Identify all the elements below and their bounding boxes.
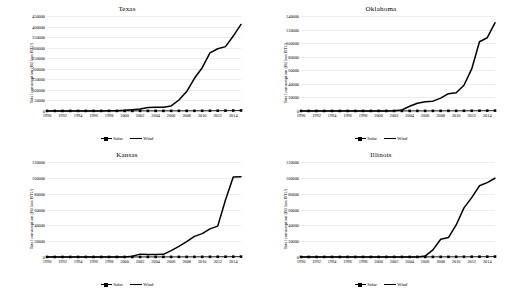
data-point-marker (447, 256, 450, 259)
y-axis-tick: 20000 (288, 239, 299, 244)
x-axis-tick: 2010 (452, 259, 461, 264)
x-axis-tick: 2006 (421, 113, 430, 118)
chart-panel-illinois: Illinois Total consumption (Billion BTU)… (254, 146, 508, 291)
x-axis-tick: 2006 (167, 259, 176, 264)
legend-item-solar: Solar (101, 282, 123, 287)
data-point-marker (470, 255, 473, 258)
data-point-marker (224, 109, 227, 112)
y-axis-tick: 200000 (32, 66, 45, 71)
x-axis-tick: 1992 (312, 113, 321, 118)
series-line-wind (47, 177, 241, 257)
y-axis-label: Total consumption (Billion BTU) (283, 42, 288, 103)
x-axis-tick: 1996 (89, 259, 98, 264)
x-axis-tick: 2012 (213, 259, 222, 264)
data-point-marker (240, 109, 243, 112)
data-point-marker (240, 255, 243, 258)
y-axis-label: Total consumption (Billion BTU) (283, 188, 288, 249)
x-axis-tick: 2012 (213, 113, 222, 118)
x-axis-tick: 2002 (136, 113, 145, 118)
y-axis-tick: 350000 (32, 35, 45, 40)
y-axis-tick: 120000 (286, 27, 299, 32)
x-axis-tick: 2004 (151, 113, 160, 118)
y-axis-tick: 60000 (288, 68, 299, 73)
x-axis-tick: 2000 (120, 259, 129, 264)
x-axis-tick: 2006 (421, 259, 430, 264)
x-axis-tick: 1994 (328, 259, 337, 264)
data-point-marker (416, 110, 419, 113)
series-lines (301, 162, 495, 257)
chart-panel-texas: Texas Total consumption (Billion BTU) 05… (0, 0, 254, 145)
x-axis-tick: 2010 (452, 113, 461, 118)
legend-item-wind: Wind (384, 136, 408, 141)
x-axis-tick: 2008 (182, 259, 191, 264)
x-axis-tick: 1998 (105, 113, 114, 118)
plot-area: 0500001000001500002000002500003000003500… (47, 16, 241, 111)
wind-series-icon (130, 283, 142, 287)
chart-panel-oklahoma: Oklahoma Total consumption (Billion BTU)… (254, 0, 508, 145)
legend-label-solar: Solar (113, 282, 123, 287)
data-point-marker (154, 256, 157, 259)
legend-label-wind: Wind (143, 136, 153, 141)
x-axis-tick: 2008 (182, 113, 191, 118)
x-axis-tick: 2010 (198, 113, 207, 118)
x-axis-tick: 2002 (136, 259, 145, 264)
y-axis-tick: 20000 (288, 95, 299, 100)
legend: Solar Wind (254, 282, 508, 287)
data-point-marker (170, 256, 173, 259)
data-point-marker (478, 255, 481, 258)
data-point-marker (201, 256, 204, 259)
series-line-wind (301, 23, 495, 111)
data-point-marker (216, 255, 219, 258)
x-axis-tick: 1990 (297, 113, 306, 118)
data-point-marker (463, 255, 466, 258)
x-axis-tick: 1992 (312, 259, 321, 264)
data-point-marker (185, 256, 188, 259)
data-point-marker (162, 256, 165, 259)
x-axis-tick: 1996 (89, 113, 98, 118)
chart-title: Kansas (0, 151, 254, 159)
data-point-marker (209, 109, 212, 112)
x-axis-tick: 2004 (405, 259, 414, 264)
y-axis-tick: 80000 (288, 191, 299, 196)
data-point-marker (463, 109, 466, 112)
legend-item-solar: Solar (101, 136, 123, 141)
y-axis-tick: 50000 (34, 98, 45, 103)
data-point-marker (486, 109, 489, 112)
data-point-marker (193, 256, 196, 259)
solar-series-icon (101, 137, 112, 141)
y-axis-tick: 300000 (32, 45, 45, 50)
legend-label-solar: Solar (113, 136, 123, 141)
data-point-marker (185, 110, 188, 113)
x-axis-tick: 2008 (436, 259, 445, 264)
data-point-marker (447, 110, 450, 113)
data-point-marker (170, 110, 173, 113)
x-axis-tick: 1994 (74, 113, 83, 118)
data-point-marker (408, 110, 411, 113)
x-axis-tick: 2002 (390, 113, 399, 118)
data-point-marker (139, 110, 142, 113)
x-axis-tick: 2014 (483, 113, 492, 118)
y-axis-label: Total consumption (Billion BTU) (29, 42, 34, 103)
x-axis-tick: 1998 (359, 259, 368, 264)
data-point-marker (147, 256, 150, 259)
series-lines (301, 16, 495, 111)
y-axis-tick: 60000 (288, 207, 299, 212)
data-point-marker (439, 256, 442, 259)
x-axis-tick: 2004 (151, 259, 160, 264)
data-point-marker (201, 109, 204, 112)
x-axis-tick: 2000 (374, 259, 383, 264)
x-axis-tick: 2008 (436, 113, 445, 118)
legend-label-solar: Solar (367, 136, 377, 141)
data-point-marker (455, 110, 458, 113)
data-point-marker (224, 255, 227, 258)
data-point-marker (209, 255, 212, 258)
plot-area: 0200004000060000800001000001200001990199… (301, 162, 495, 257)
data-point-marker (470, 109, 473, 112)
wind-series-icon (130, 137, 142, 141)
y-axis-tick: 40000 (34, 223, 45, 228)
legend-label-wind: Wind (397, 282, 407, 287)
legend-item-wind: Wind (130, 282, 154, 287)
chart-title: Texas (0, 5, 254, 13)
legend-label-wind: Wind (397, 136, 407, 141)
data-point-marker (478, 109, 481, 112)
